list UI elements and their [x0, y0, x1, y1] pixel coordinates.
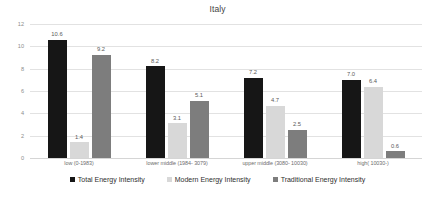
- bar-slot: 1.4: [70, 24, 89, 158]
- bar-value-label: 10.6: [51, 32, 62, 38]
- legend-item[interactable]: Total Energy Intensity: [70, 176, 145, 183]
- bar-slot: 7.0: [342, 24, 361, 158]
- bar-group: 8.23.15.1: [128, 24, 226, 158]
- y-axis-tick-label: 6: [21, 88, 24, 94]
- x-axis-line: [30, 158, 422, 159]
- bar-value-label: 2.5: [293, 122, 301, 128]
- bar-value-label: 0.6: [391, 144, 399, 150]
- legend-label: Total Energy Intensity: [78, 176, 145, 183]
- bar[interactable]: [190, 101, 209, 158]
- bar-slot: 9.2: [92, 24, 111, 158]
- bar[interactable]: [288, 130, 307, 158]
- bar-slot: 6.4: [364, 24, 383, 158]
- bar-slot: 4.7: [266, 24, 285, 158]
- legend-label: Traditional Energy Intensity: [281, 176, 366, 183]
- x-axis-category-label: low (0-1983): [30, 160, 128, 166]
- legend-swatch-icon: [167, 177, 172, 182]
- bar-value-label: 7.2: [249, 70, 257, 76]
- y-axis-tick-label: 0: [21, 155, 24, 161]
- chart-legend: Total Energy IntensityModern Energy Inte…: [0, 176, 435, 183]
- bar[interactable]: [244, 78, 263, 158]
- bar-slot: 2.5: [288, 24, 307, 158]
- legend-item[interactable]: Traditional Energy Intensity: [273, 176, 366, 183]
- x-axis-labels: low (0-1983)lower middle (1984- 3079)upp…: [30, 160, 422, 166]
- bar-value-label: 4.7: [271, 98, 279, 104]
- legend-item[interactable]: Modern Energy Intensity: [167, 176, 251, 183]
- bar-value-label: 6.4: [369, 79, 377, 85]
- bar-value-label: 7.0: [347, 72, 355, 78]
- chart-title: Italy: [0, 4, 435, 14]
- bar-group: 10.61.49.2: [30, 24, 128, 158]
- bar[interactable]: [168, 123, 187, 158]
- bar-group: 7.06.40.6: [324, 24, 422, 158]
- bar-group-bars: 7.06.40.6: [324, 24, 422, 158]
- bar[interactable]: [266, 106, 285, 158]
- y-axis-labels: 024681012: [0, 24, 28, 158]
- bar-chart: Italy 024681012 10.61.49.28.23.15.17.24.…: [0, 0, 435, 197]
- bar-value-label: 8.2: [151, 59, 159, 65]
- bar[interactable]: [386, 151, 405, 158]
- bar[interactable]: [70, 142, 89, 158]
- bar[interactable]: [48, 40, 67, 158]
- bar-slot: 10.6: [48, 24, 67, 158]
- legend-label: Modern Energy Intensity: [175, 176, 251, 183]
- bar-value-label: 1.4: [75, 135, 83, 141]
- y-axis-tick-label: 2: [21, 133, 24, 139]
- bar[interactable]: [342, 80, 361, 158]
- bar-slot: 0.6: [386, 24, 405, 158]
- y-axis-tick-label: 12: [18, 21, 24, 27]
- x-axis-category-label: upper middle (3080- 10030): [226, 160, 324, 166]
- bar-group-bars: 7.24.72.5: [226, 24, 324, 158]
- x-axis-category-label: lower middle (1984- 3079): [128, 160, 226, 166]
- bar-slot: 5.1: [190, 24, 209, 158]
- y-axis-tick-label: 10: [18, 43, 24, 49]
- bar-value-label: 5.1: [195, 93, 203, 99]
- legend-swatch-icon: [70, 177, 75, 182]
- bar[interactable]: [146, 66, 165, 158]
- plot-area: 10.61.49.28.23.15.17.24.72.57.06.40.6: [30, 24, 422, 158]
- bar-slot: 7.2: [244, 24, 263, 158]
- y-axis-tick-label: 8: [21, 66, 24, 72]
- bar-group-bars: 8.23.15.1: [128, 24, 226, 158]
- bar[interactable]: [364, 87, 383, 158]
- bar-value-label: 3.1: [173, 116, 181, 122]
- bar-group-bars: 10.61.49.2: [30, 24, 128, 158]
- bar[interactable]: [92, 55, 111, 158]
- bar-value-label: 9.2: [97, 47, 105, 53]
- bar-group: 7.24.72.5: [226, 24, 324, 158]
- y-axis-tick-label: 4: [21, 110, 24, 116]
- bar-slot: 3.1: [168, 24, 187, 158]
- legend-swatch-icon: [273, 177, 278, 182]
- x-axis-category-label: high( 10030-): [324, 160, 422, 166]
- bar-groups: 10.61.49.28.23.15.17.24.72.57.06.40.6: [30, 24, 422, 158]
- bar-slot: 8.2: [146, 24, 165, 158]
